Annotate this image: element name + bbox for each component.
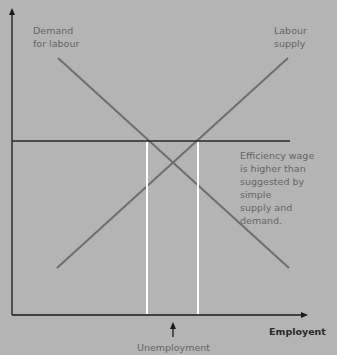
note-line4: supply and demand. xyxy=(240,201,337,227)
demand-label: Demand for labour xyxy=(33,24,79,50)
x-axis-label: Employent xyxy=(269,325,326,338)
arrow-up-icon xyxy=(9,8,15,15)
demand-label-line1: Demand xyxy=(33,24,79,37)
note-line3: suggested by simple xyxy=(240,175,337,201)
supply-label: Labour supply xyxy=(274,24,307,50)
efficiency-note: Efficiency wage is higher than suggested… xyxy=(240,149,337,227)
supply-label-line2: supply xyxy=(274,37,307,50)
supply-label-line1: Labour xyxy=(274,24,307,37)
x-axis xyxy=(12,312,308,318)
arrow-right-icon xyxy=(301,312,308,318)
demand-label-line2: for labour xyxy=(33,37,79,50)
note-line2: is higher than xyxy=(240,162,337,175)
unemployment-label: Unemployment xyxy=(137,341,210,354)
y-axis xyxy=(9,8,15,315)
unemployment-arrow-icon xyxy=(170,322,176,337)
note-line1: Efficiency wage xyxy=(240,149,337,162)
